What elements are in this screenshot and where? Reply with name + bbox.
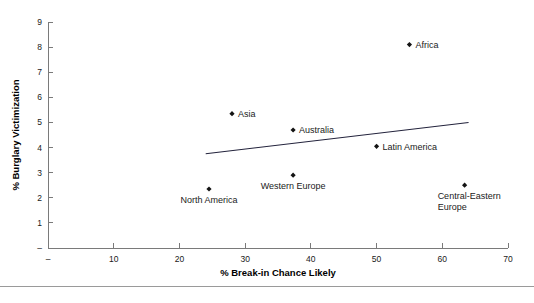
- data-point-label: Africa: [415, 40, 438, 50]
- x-axis-title: % Break-in Chance Likely: [220, 267, 336, 278]
- data-point[interactable]: Latin America: [374, 142, 437, 152]
- x-tick-label: 30: [240, 254, 250, 264]
- x-tick-label: 60: [438, 254, 448, 264]
- y-tick-label: 8: [37, 42, 42, 52]
- y-tick-label: 4: [37, 143, 42, 153]
- data-point-label: Australia: [299, 125, 334, 135]
- data-point-label: Central-Eastern: [438, 191, 501, 201]
- y-tick-label: 1: [37, 218, 42, 228]
- y-tick-label: –: [37, 243, 42, 253]
- y-tick-label: 9: [37, 17, 42, 27]
- chart-canvas: –123456789 % Burglary Victimization –102…: [0, 0, 534, 303]
- x-tick-label: 40: [306, 254, 316, 264]
- chart-background: [0, 0, 534, 303]
- y-tick-label: 7: [37, 67, 42, 77]
- y-tick-label: 3: [37, 168, 42, 178]
- x-tick-label: –: [46, 254, 51, 264]
- data-point-label: North America: [180, 195, 237, 205]
- scatter-chart: –123456789 % Burglary Victimization –102…: [0, 0, 534, 303]
- data-point-label: Asia: [238, 109, 256, 119]
- x-tick-label: 50: [372, 254, 382, 264]
- data-point-label: Western Europe: [261, 181, 326, 191]
- y-tick-label: 6: [37, 92, 42, 102]
- x-tick-label: 10: [109, 254, 119, 264]
- x-tick-label: 20: [175, 254, 185, 264]
- y-tick-label: 5: [37, 117, 42, 127]
- data-point-label: Latin America: [383, 142, 438, 152]
- x-tick-label: 70: [503, 254, 513, 264]
- y-tick-label: 2: [37, 193, 42, 203]
- data-point-label: Europe: [438, 202, 467, 212]
- y-axis-title: % Burglary Victimization: [10, 79, 21, 190]
